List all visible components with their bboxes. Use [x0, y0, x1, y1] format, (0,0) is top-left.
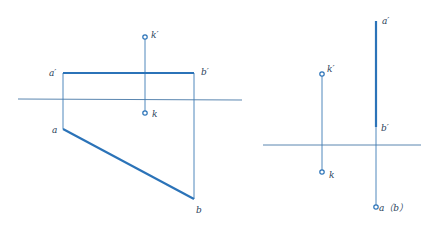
label-k-prime-right: k′	[327, 64, 335, 74]
point-k-marker-right	[320, 170, 324, 174]
point-k-marker	[143, 111, 147, 115]
right-figure: a′ b′ k′ k a（b）	[263, 16, 421, 213]
label-k: k	[152, 109, 157, 119]
left-figure: a′ b′ k′ k a b	[18, 30, 242, 215]
label-b-prime: b′	[201, 67, 209, 77]
label-a-prime: a′	[49, 68, 56, 78]
line-ab-top-view	[63, 129, 194, 199]
label-a-prime-right: a′	[382, 16, 389, 26]
projection-axis-left	[18, 99, 242, 100]
label-k-prime: k′	[151, 30, 159, 40]
label-a: a	[52, 125, 57, 135]
label-k-right: k	[329, 170, 334, 180]
projection-diagrams: a′ b′ k′ k a b a′ b′ k′ k a（b）	[0, 0, 440, 229]
label-ab-right: a（b）	[379, 203, 408, 213]
point-k-prime-marker	[143, 35, 147, 39]
point-k-prime-marker-right	[320, 72, 324, 76]
point-ab-marker-right	[374, 205, 378, 209]
label-b-prime-right: b′	[381, 123, 389, 133]
label-b: b	[196, 205, 202, 215]
